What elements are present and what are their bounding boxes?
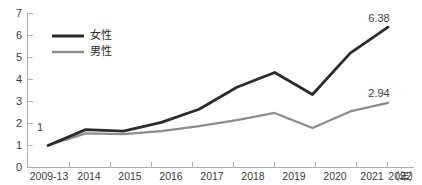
legend: 女性 男性 bbox=[52, 28, 112, 57]
data-label-start: 1 bbox=[37, 121, 43, 133]
y-tick-label-7: 7 bbox=[16, 7, 22, 19]
chart-canvas: 7 6 5 4 3 2 1 0 2009-13 2014 2015 2016 bbox=[0, 0, 422, 185]
y-tick-label-3: 3 bbox=[16, 95, 22, 107]
y-tick-label-2: 2 bbox=[16, 117, 22, 129]
legend-label-female: 女性 bbox=[90, 28, 112, 41]
series-line-male bbox=[48, 103, 388, 146]
legend-label-male: 男性 bbox=[90, 44, 112, 57]
x-axis-ticks bbox=[70, 162, 388, 168]
line-chart: 7 6 5 4 3 2 1 0 2009-13 2014 2015 2016 bbox=[0, 0, 422, 185]
x-tick-label-2020: 2020 bbox=[323, 170, 347, 182]
y-tick-label-1: 1 bbox=[16, 139, 22, 151]
y-axis-ticks: 7 6 5 4 3 2 1 0 bbox=[16, 7, 33, 173]
x-axis-unit-label: （年） bbox=[389, 170, 419, 182]
x-axis-labels: 2009-13 2014 2015 2016 2017 2018 2019 20… bbox=[30, 170, 419, 182]
y-tick-label-0: 0 bbox=[16, 161, 22, 173]
x-tick-label-2018: 2018 bbox=[241, 170, 265, 182]
x-tick-label-2017: 2017 bbox=[200, 170, 224, 182]
x-tick-label-2009-13: 2009-13 bbox=[30, 170, 69, 182]
x-tick-label-2015: 2015 bbox=[118, 170, 142, 182]
data-label-female-2022: 6.38 bbox=[368, 12, 389, 24]
y-tick-label-5: 5 bbox=[16, 51, 22, 63]
x-tick-label-2019: 2019 bbox=[282, 170, 306, 182]
data-label-male-2022: 2.94 bbox=[368, 87, 389, 99]
x-tick-label-2014: 2014 bbox=[77, 170, 101, 182]
y-tick-label-6: 6 bbox=[16, 29, 22, 41]
x-tick-label-2016: 2016 bbox=[159, 170, 183, 182]
y-tick-label-4: 4 bbox=[16, 73, 22, 85]
axes-group bbox=[28, 13, 415, 168]
x-tick-label-2021: 2021 bbox=[360, 170, 384, 182]
